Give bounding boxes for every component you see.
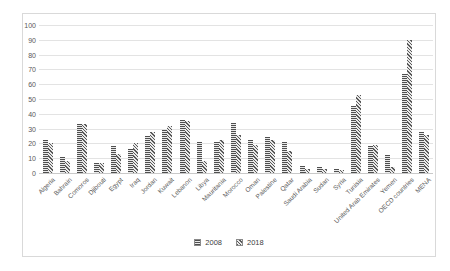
bar-2018-bahrain: [65, 161, 70, 173]
bar-2018-sudan: [322, 169, 327, 173]
bar-2018-egypt: [116, 154, 121, 173]
chart-screenshot: 0102030405060708090100AlgeriaBahrainComo…: [0, 0, 450, 271]
x-axis-label-mena: MENA: [414, 176, 432, 194]
chart-frame: 0102030405060708090100AlgeriaBahrainComo…: [22, 13, 436, 257]
bar-2018-comoros: [82, 124, 87, 173]
y-tick-label: 60: [28, 81, 36, 88]
category-cluster-comoros: [73, 25, 90, 173]
category-cluster-oman: [245, 25, 262, 173]
bar-2018-syria: [339, 170, 344, 173]
category-cluster-libya: [193, 25, 210, 173]
category-cluster-jordan: [142, 25, 159, 173]
category-cluster-tunisia: [347, 25, 364, 173]
x-axis-label-egypt: Egypt: [107, 176, 124, 193]
category-cluster-palestine: [262, 25, 279, 173]
category-cluster-djibouti: [90, 25, 107, 173]
bar-2018-lebanon: [185, 121, 190, 173]
x-axis-label-jordan: Jordan: [139, 176, 158, 195]
bar-2018-morocco: [236, 135, 241, 173]
bar-2018-mena: [424, 135, 429, 173]
y-tick-label: 40: [28, 110, 36, 117]
bar-2018-oman: [253, 145, 258, 173]
category-cluster-yemen: [382, 25, 399, 173]
legend-swatch-2018: [236, 239, 243, 246]
bar-2018-kuwait: [167, 126, 172, 173]
category-cluster-bahrain: [56, 25, 73, 173]
plot-area: 0102030405060708090100AlgeriaBahrainComo…: [39, 25, 433, 173]
y-tick-label: 80: [28, 51, 36, 58]
y-tick-label: 70: [28, 66, 36, 73]
x-axis-label-djibouti: Djibouti: [87, 176, 107, 196]
bar-2018-palestine: [270, 140, 275, 173]
y-tick-label: 100: [24, 22, 36, 29]
category-cluster-iraq: [125, 25, 142, 173]
bar-2018-oecd-countries: [407, 40, 412, 173]
y-tick-label: 10: [28, 155, 36, 162]
category-cluster-united-arab-emirates: [364, 25, 381, 173]
y-tick-label: 30: [28, 125, 36, 132]
legend-swatch-2008: [194, 239, 201, 246]
legend-label-2018: 2018: [247, 238, 264, 247]
bar-2018-iraq: [133, 143, 138, 173]
bar-2018-united-arab-emirates: [373, 145, 378, 173]
bar-2018-qatar: [287, 151, 292, 173]
x-axis-label-sudan: Sudan: [311, 176, 329, 194]
bar-2018-libya: [202, 161, 207, 173]
category-cluster-kuwait: [159, 25, 176, 173]
category-cluster-oecd-countries: [399, 25, 416, 173]
category-cluster-lebanon: [176, 25, 193, 173]
bar-2018-mauritania: [219, 140, 224, 173]
bar-2018-djibouti: [99, 163, 104, 173]
y-tick-label: 20: [28, 140, 36, 147]
category-cluster-qatar: [279, 25, 296, 173]
bar-2018-yemen: [390, 167, 395, 173]
x-axis-line: [39, 173, 433, 174]
legend-label-2008: 2008: [205, 238, 222, 247]
category-cluster-syria: [330, 25, 347, 173]
legend-item-2018: 2018: [236, 238, 264, 247]
category-cluster-egypt: [108, 25, 125, 173]
category-cluster-sudan: [313, 25, 330, 173]
category-cluster-algeria: [39, 25, 56, 173]
category-cluster-mena: [416, 25, 433, 173]
category-cluster-mauritania: [210, 25, 227, 173]
bar-2018-saudi-arabia: [305, 169, 310, 173]
category-cluster-saudi-arabia: [296, 25, 313, 173]
legend: 20082018: [23, 238, 435, 247]
x-axis-label-iraq: Iraq: [128, 176, 141, 189]
bar-2018-tunisia: [356, 95, 361, 173]
bar-2018-jordan: [150, 132, 155, 173]
y-tick-label: 0: [32, 170, 36, 177]
bar-2018-algeria: [48, 143, 53, 173]
legend-item-2008: 2008: [194, 238, 222, 247]
y-tick-label: 90: [28, 36, 36, 43]
y-tick-label: 50: [28, 96, 36, 103]
category-cluster-morocco: [227, 25, 244, 173]
